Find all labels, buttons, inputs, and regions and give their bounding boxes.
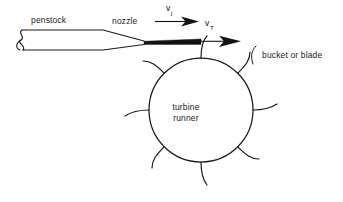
penstock-shape: [17, 30, 144, 50]
vj-label: v j: [166, 3, 172, 16]
jet-band-shape: [144, 39, 201, 45]
turbine-runner-label-line2: runner: [173, 113, 198, 123]
vt-subscript: T: [210, 24, 214, 31]
vj-subscript: j: [170, 9, 172, 16]
bucket-blade: [238, 147, 259, 159]
jet-velocity-arrow: [155, 17, 199, 27]
bucket-blade: [125, 110, 149, 116]
bucket-blade: [253, 104, 277, 110]
bucket-blade: [238, 52, 250, 73]
nozzle-label: nozzle: [112, 16, 138, 26]
bucket-blade: [152, 147, 164, 168]
penstock-break-symbol-inner: [17, 40, 21, 50]
turbine-runner-label-line1: turbine: [172, 102, 199, 112]
water-jet: [144, 39, 201, 45]
penstock-bottom-wall: [23, 45, 144, 51]
penstock-label: penstock: [31, 15, 67, 25]
penstock-top-wall: [22, 30, 144, 41]
bucket-group: [125, 36, 277, 185]
vt-label: v T: [205, 18, 214, 31]
diagram-canvas: penstock nozzle bucket or blade turbine …: [0, 0, 343, 202]
bucket-blade: [201, 36, 207, 58]
turbine-diagram-figure: penstock nozzle bucket or blade turbine …: [0, 0, 343, 202]
bucket-or-blade-label: bucket or blade: [262, 50, 322, 60]
bucket-blade: [201, 162, 207, 185]
tangential-velocity-arrow: [201, 36, 241, 47]
bucket-label-leader: [252, 46, 256, 64]
bucket-blade: [143, 61, 164, 73]
